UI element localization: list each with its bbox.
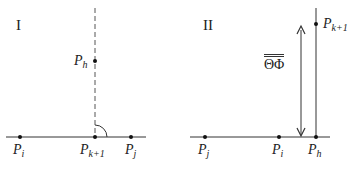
label-sub: k+1 xyxy=(332,22,348,33)
label-base: P xyxy=(198,142,207,157)
label-base: P xyxy=(125,142,134,157)
point-pj-1 xyxy=(129,135,133,139)
point-pi-2 xyxy=(277,135,281,139)
panel-2-title: II xyxy=(203,17,213,34)
label-pj-1: Pj xyxy=(125,143,136,157)
label-ph-2: Ph xyxy=(308,143,322,157)
label-base: P xyxy=(13,142,22,157)
diagram-canvas xyxy=(0,0,356,180)
label-sub: h xyxy=(317,148,322,159)
label-pi-1: Pi xyxy=(13,143,24,157)
label-base: P xyxy=(323,16,332,31)
point-ph-2 xyxy=(314,135,318,139)
label-base: P xyxy=(80,142,89,157)
distance-label: ΘΦ xyxy=(264,54,284,72)
label-pk1-2: Pk+1 xyxy=(323,17,348,31)
point-pj-2 xyxy=(203,135,207,139)
label-pj-2: Pj xyxy=(198,143,209,157)
label-sub: j xyxy=(134,148,137,159)
label-pi-2: Pi xyxy=(272,143,283,157)
label-sub: k+1 xyxy=(89,148,105,159)
label-pk1-1: Pk+1 xyxy=(80,143,105,157)
label-sub: i xyxy=(22,148,25,159)
panel-1-title: I xyxy=(16,17,21,34)
point-pk1-2 xyxy=(314,22,318,26)
label-ph-1: Ph xyxy=(74,54,88,68)
label-base: P xyxy=(272,142,281,157)
label-sub: h xyxy=(83,59,88,70)
point-pi-1 xyxy=(18,135,22,139)
label-sub: i xyxy=(281,148,284,159)
label-sub: j xyxy=(207,148,210,159)
point-ph-1 xyxy=(93,59,97,63)
label-base: P xyxy=(74,53,83,68)
label-base: P xyxy=(308,142,317,157)
point-pk1-1 xyxy=(93,135,97,139)
right-angle-arc xyxy=(95,125,107,137)
